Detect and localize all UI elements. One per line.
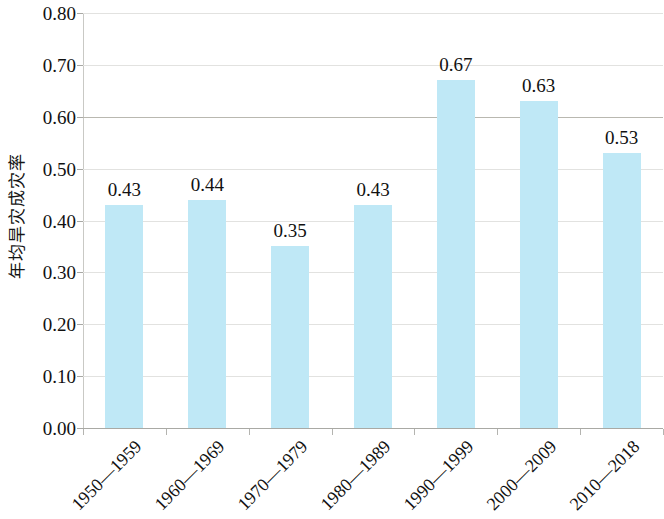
x-axis-tick-mark [249,429,250,435]
y-axis-tick-label: 0.20 [24,315,76,334]
x-axis-tick-label: 1950—1959 [48,437,146,519]
x-axis-tick-mark [166,429,167,435]
x-axis-tick-mark [83,429,84,435]
bar [354,205,392,428]
x-axis-tick-mark [332,429,333,435]
y-axis-tick-label: 0.30 [24,263,76,282]
x-axis-tick-mark [497,429,498,435]
bar [188,200,226,428]
bar [520,101,558,428]
gridline [83,65,663,66]
x-axis-tick-mark [580,429,581,435]
gridline [83,428,663,429]
bar [437,80,475,428]
y-axis-tick-label: 0.80 [24,4,76,23]
bar-value-label: 0.67 [416,55,496,74]
y-axis-tick-label: 0.60 [24,107,76,126]
y-axis-tick-label: 0.50 [24,159,76,178]
bar-value-label: 0.43 [84,180,164,199]
bar-value-label: 0.53 [582,128,662,147]
bar-value-label: 0.43 [333,180,413,199]
bar-value-label: 0.35 [250,221,330,240]
y-axis-tick-label: 0.00 [24,419,76,438]
bar [105,205,143,428]
gridline [83,13,663,14]
bar [603,153,641,428]
y-axis-tick-label: 0.40 [24,211,76,230]
bar [271,246,309,428]
bar-value-label: 0.44 [167,175,247,194]
y-axis-tick-label: 0.70 [24,55,76,74]
y-axis-tick-label: 0.10 [24,367,76,386]
bar-value-label: 0.63 [499,76,579,95]
x-axis-tick-mark [414,429,415,435]
gridline [83,169,663,170]
gridline [83,117,663,118]
